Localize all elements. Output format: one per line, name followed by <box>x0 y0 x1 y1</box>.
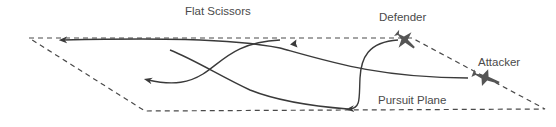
attacker-path <box>63 39 468 78</box>
defender-label: Defender <box>379 11 426 23</box>
crossing-path <box>150 40 300 82</box>
pursuit-path-b <box>140 40 276 104</box>
diagram-title: Flat Scissors <box>185 5 251 17</box>
second-curve <box>148 40 280 83</box>
scissor-path-2 <box>150 41 345 109</box>
defender-path <box>110 40 398 109</box>
attacker-label: Attacker <box>478 56 520 68</box>
pursuit-plane-label: Pursuit Plane <box>378 94 446 106</box>
attacker-jet-icon <box>470 65 502 91</box>
attacker-path-arrowhead <box>289 39 297 48</box>
diagram-canvas <box>0 0 556 127</box>
